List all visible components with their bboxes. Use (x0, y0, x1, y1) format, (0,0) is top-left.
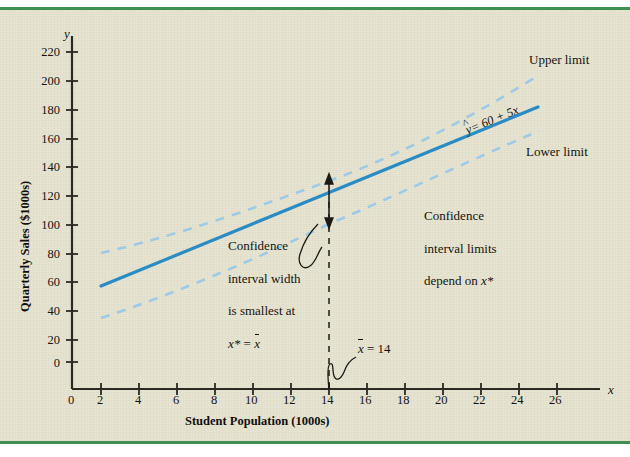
plot-svg (0, 0, 630, 457)
x-tick-label-10: 10 (245, 393, 258, 408)
ci-smallest-line-4: x* = x (228, 336, 301, 352)
y-axis-variable-label: y (64, 26, 70, 42)
x-tick-label-2: 2 (97, 393, 103, 408)
x-tick-label-26: 26 (549, 393, 562, 408)
ci-smallest-leader (299, 224, 322, 268)
ci-depends-line3-text: depend on (424, 273, 481, 288)
x-tick-label-14: 14 (321, 393, 334, 408)
xbar-leader (328, 357, 356, 389)
x-tick-label-6: 6 (173, 393, 179, 408)
x-axis-variable-label: x (608, 382, 614, 398)
x-tick-label-8: 8 (211, 393, 217, 408)
x-axis-title: Student Population (1000s) (185, 414, 329, 429)
ci-smallest-annotation: Confidence interval width is smallest at… (228, 222, 301, 368)
xbar-symbol: x (254, 336, 260, 352)
y-tick-label-20: 20 (26, 333, 60, 348)
x-tick-label-0: 0 (68, 393, 74, 408)
xbar-equals-14: = 14 (364, 341, 391, 356)
xbar-value-label: x = 14 (358, 341, 391, 357)
y-tick-label-0: 0 (26, 356, 60, 371)
ci-depends-line-2: interval limits (424, 241, 497, 257)
x-tick-label-4: 4 (135, 393, 141, 408)
lower-limit-label: Lower limit (526, 144, 588, 160)
ci-depends-line-1: Confidence (424, 208, 497, 224)
x-tick-label-22: 22 (473, 393, 486, 408)
ci-smallest-line-1: Confidence (228, 238, 301, 254)
equals-sign: = (240, 336, 254, 351)
x-tick-label-18: 18 (397, 393, 410, 408)
xbar-symbol-2: x (358, 341, 364, 357)
ci-depends-line-3: depend on x* (424, 273, 497, 289)
x-tick-label-16: 16 (359, 393, 372, 408)
figure-container: 220 200 180 160 140 120 100 80 60 40 20 … (0, 0, 630, 457)
x-tick-label-20: 20 (435, 393, 448, 408)
y-tick-label-180: 180 (26, 103, 60, 118)
x-tick-label-24: 24 (511, 393, 524, 408)
y-tick-label-160: 160 (26, 132, 60, 147)
x-tick-label-12: 12 (283, 393, 296, 408)
ci-smallest-line-2: interval width (228, 271, 301, 287)
ci-width-arrow (325, 174, 333, 228)
axes-group (72, 36, 600, 389)
ci-depends-xstar: x* (481, 273, 493, 288)
y-tick-label-220: 220 (26, 45, 60, 60)
ci-depends-annotation: Confidence interval limits depend on x* (424, 192, 497, 306)
ci-smallest-line-3: is smallest at (228, 303, 301, 319)
upper-limit-label: Upper limit (529, 52, 589, 68)
y-axis-title: Quarterly Sales ($1000s) (18, 181, 33, 312)
y-tick-label-200: 200 (26, 74, 60, 89)
y-tick-label-140: 140 (26, 160, 60, 175)
xstar-symbol: x* (228, 336, 240, 351)
